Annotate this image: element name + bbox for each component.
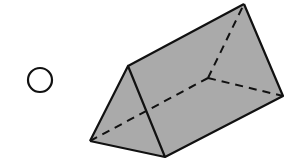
triangular-prism [90,4,283,157]
radio-button[interactable] [28,68,52,92]
diagram-canvas [0,0,296,162]
